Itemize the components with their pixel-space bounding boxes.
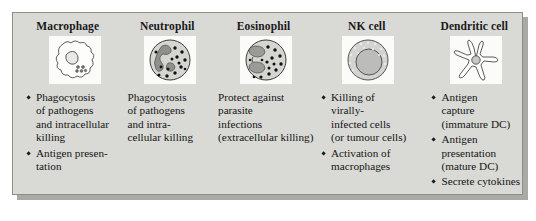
list-item: Phagocytosis of pathogens and intracellu… <box>27 91 120 145</box>
list-item: Killing of virally- infected cells (or t… <box>322 91 421 145</box>
column-macrophage: Macrophage Phagocytosis of pathogens a <box>13 13 120 194</box>
list-item: Secrete cytokines <box>432 175 522 188</box>
column-title-macrophage: Macrophage <box>27 20 120 32</box>
fact-list-eosinophil: Protect against parasite infections (ext… <box>218 91 311 145</box>
column-title-neutrophil: Neutrophil <box>127 20 211 32</box>
list-item: Protect against parasite infections (ext… <box>218 91 311 145</box>
list-item: Antigen capture (immature DC) <box>432 91 522 131</box>
comparison-panel: Macrophage Phagocytosis of pathogens a <box>12 12 523 195</box>
column-dendritic-cell: Dendritic cell Antigen capture (immature… <box>421 13 522 194</box>
eosinophil-cell-icon <box>240 36 292 84</box>
neutrophil-cell-icon <box>144 36 196 84</box>
list-item: Activation of macrophages <box>322 147 421 174</box>
macrophage-cell-icon <box>49 36 101 84</box>
list-item: Antigen presentation (mature DC) <box>432 133 522 173</box>
list-item: Phagocytosis of pathogens and intra- cel… <box>127 91 211 145</box>
column-title-eosinophil: Eosinophil <box>218 20 311 32</box>
columns-container: Macrophage Phagocytosis of pathogens a <box>13 13 522 194</box>
column-nk-cell: NK cell <box>311 13 421 194</box>
column-title-dendritic-cell: Dendritic cell <box>432 20 522 32</box>
column-eosinophil: Eosinophil <box>211 13 311 194</box>
list-item: Antigen presen- tation <box>27 147 120 174</box>
nk-cell-icon <box>342 36 394 84</box>
dendritic-cell-icon <box>450 36 502 84</box>
fact-list-nk-cell: Killing of virally- infected cells (or t… <box>322 91 421 173</box>
column-title-nk-cell: NK cell <box>322 20 421 32</box>
fact-list-macrophage: Phagocytosis of pathogens and intracellu… <box>27 91 120 173</box>
column-neutrophil: Neutrophil <box>120 13 211 194</box>
fact-list-dendritic-cell: Antigen capture (immature DC) Antigen pr… <box>432 91 522 189</box>
fact-list-neutrophil: Phagocytosis of pathogens and intra- cel… <box>127 91 211 145</box>
immune-cell-comparison-figure: Macrophage Phagocytosis of pathogens a <box>0 0 536 221</box>
